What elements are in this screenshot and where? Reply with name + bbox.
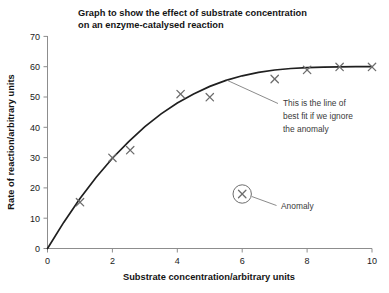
- chart-title-line-1: Graph to show the effect of substrate co…: [78, 8, 307, 18]
- best-fit-note-line-3: the anomaly: [283, 124, 329, 134]
- y-tick-label-20: 20: [30, 183, 40, 193]
- chart-background: [0, 0, 389, 293]
- best-fit-note-line-2: best fit if we ignore: [283, 111, 353, 121]
- y-tick-label-10: 10: [30, 214, 40, 224]
- best-fit-note-line-1: This is the line of: [283, 98, 347, 108]
- enzyme-kinetics-chart: Graph to show the effect of substrate co…: [0, 0, 389, 293]
- y-tick-label-50: 50: [30, 92, 40, 102]
- x-tick-label-0: 0: [45, 256, 50, 266]
- x-tick-label-2: 2: [110, 256, 115, 266]
- y-tick-label-70: 70: [30, 32, 40, 42]
- x-tick-label-10: 10: [367, 256, 377, 266]
- y-tick-label-30: 30: [30, 153, 40, 163]
- chart-title-line-2: on an enzyme-catalysed reaction: [78, 20, 224, 30]
- x-axis-title: Substrate concentration/arbitrary units: [123, 272, 295, 282]
- x-tick-label-6: 6: [240, 256, 245, 266]
- x-tick-label-8: 8: [305, 256, 310, 266]
- anomaly-note-label: Anomaly: [281, 201, 314, 211]
- x-tick-label-4: 4: [175, 256, 180, 266]
- y-axis-title: Rate of reaction/arbitrary units: [6, 74, 16, 209]
- y-tick-label-40: 40: [30, 123, 40, 133]
- y-tick-label-0: 0: [35, 244, 40, 254]
- y-tick-label-60: 60: [30, 62, 40, 72]
